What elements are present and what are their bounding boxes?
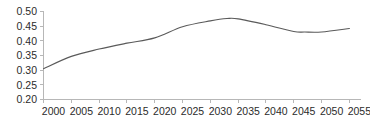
x-tick-label: 2025 xyxy=(181,105,205,117)
series-line-1 xyxy=(44,18,350,69)
x-tick-label: 2010 xyxy=(97,105,121,117)
x-tick-label: 2020 xyxy=(153,105,177,117)
x-tick-label: 2030 xyxy=(209,105,233,117)
y-tick-label: 0.45 xyxy=(17,20,38,32)
y-tick-label: 0.20 xyxy=(17,93,38,105)
y-tick-label: 0.35 xyxy=(17,49,38,61)
x-tick-label: 2005 xyxy=(70,105,94,117)
x-tick-label: 2000 xyxy=(42,105,66,117)
x-tick-label: 2045 xyxy=(292,105,316,117)
y-tick-label: 0.40 xyxy=(17,35,38,47)
x-tick-label: 2055 xyxy=(348,105,370,117)
x-tick-label: 2015 xyxy=(125,105,149,117)
x-tick-label: 2050 xyxy=(320,105,344,117)
x-tick-label: 2035 xyxy=(236,105,260,117)
y-tick-label: 0.25 xyxy=(17,79,38,91)
y-tick-label: 0.30 xyxy=(17,64,38,76)
chart-canvas: 0.500.450.400.350.300.250.20200020052010… xyxy=(0,0,370,126)
x-tick-label: 2040 xyxy=(264,105,288,117)
line-chart: 0.500.450.400.350.300.250.20200020052010… xyxy=(0,0,370,126)
y-tick-label: 0.50 xyxy=(17,5,38,17)
